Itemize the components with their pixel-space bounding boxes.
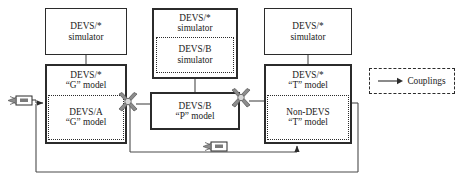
model-right-line1: DEVS/* (292, 70, 324, 80)
model-mid-line1: DEVS/B (178, 101, 211, 111)
model-left-inner-line2: “G” model (66, 117, 107, 127)
model-box-mid[interactable]: DEVS/B “P” model (150, 92, 240, 130)
coupling-port-icon-b[interactable] (230, 88, 252, 108)
model-box-right-inner[interactable]: Non-DEVS “T” model (267, 95, 349, 140)
simulator-box-right[interactable]: DEVS/* simulator (264, 8, 352, 55)
model-box-right[interactable]: DEVS/* “T” model Non-DEVS “T” model (264, 64, 352, 144)
coupling-port-icon-a[interactable] (117, 92, 139, 112)
model-right-inner-line2: “T” model (288, 117, 328, 127)
diagram-canvas: DEVS/* simulator DEVS/* simulator DEVS/B… (0, 0, 461, 182)
simulator-mid-inner-line2: simulator (177, 55, 212, 65)
simulator-mid-line1: DEVS/* (179, 13, 211, 23)
simulator-right-line1: DEVS/* (292, 21, 324, 31)
arrow-icon (378, 76, 404, 86)
simulator-left-line2: simulator (68, 32, 103, 42)
model-right-inner-line1: Non-DEVS (286, 107, 329, 117)
model-right-line2: “T” model (288, 80, 328, 90)
simulator-mid-line2: simulator (177, 23, 212, 33)
legend: Couplings (369, 68, 455, 94)
model-box-left[interactable]: DEVS/* “G” model DEVS/A “G” model (45, 64, 127, 144)
message-tag-icon-input[interactable] (8, 93, 34, 106)
model-left-line1: DEVS/* (70, 70, 102, 80)
simulator-right-line2: simulator (290, 32, 325, 42)
simulator-box-mid-inner[interactable]: DEVS/B simulator (156, 37, 234, 73)
simulator-mid-inner-line1: DEVS/B (178, 44, 211, 54)
simulator-box-mid[interactable]: DEVS/* simulator DEVS/B simulator (152, 8, 238, 79)
model-left-inner-line1: DEVS/A (69, 107, 103, 117)
legend-label: Couplings (407, 76, 445, 86)
model-box-left-inner[interactable]: DEVS/A “G” model (48, 95, 124, 140)
simulator-left-line1: DEVS/* (70, 21, 102, 31)
model-mid-line2: “P” model (176, 111, 215, 121)
simulator-box-left[interactable]: DEVS/* simulator (45, 8, 127, 55)
model-left-line2: “G” model (66, 80, 107, 90)
message-tag-icon-feedback[interactable] (203, 139, 229, 152)
